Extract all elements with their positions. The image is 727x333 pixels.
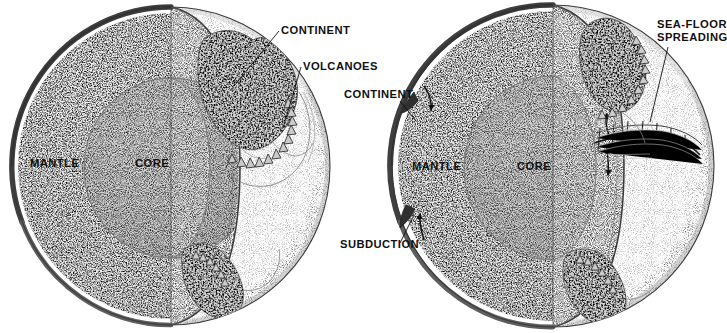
right-label-continent: CONTINENT (344, 88, 413, 100)
right-label-seafloor-line2: SPREADING (657, 31, 727, 43)
left-label-continent: CONTINENT (281, 24, 350, 36)
earth-cutaway-figure: CONTINENT VOLCANOES MANTLE CORE (0, 0, 727, 333)
left-label-core: CORE (135, 157, 169, 169)
diagram-canvas: CONTINENT VOLCANOES MANTLE CORE (0, 0, 727, 333)
left-label-volcanoes: VOLCANOES (303, 60, 378, 72)
left-label-mantle: MANTLE (30, 157, 79, 169)
right-label-seafloor-line1: SEA-FLOOR (657, 18, 727, 30)
right-label-mantle: MANTLE (412, 160, 461, 172)
right-label-subduction: SUBDUCTION (340, 238, 419, 250)
right-label-core: CORE (517, 160, 551, 172)
